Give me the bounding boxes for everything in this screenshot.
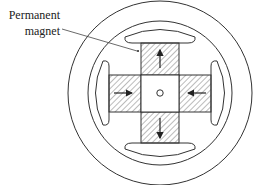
leader-dot	[137, 50, 139, 52]
pole-shoe-right	[211, 61, 225, 125]
pole-shoe-bottom	[125, 143, 195, 157]
pole-shoe-left	[96, 61, 110, 125]
rotor-diagram	[0, 0, 260, 185]
pole-shoe-top	[125, 30, 195, 44]
shaft-hole	[157, 90, 163, 96]
